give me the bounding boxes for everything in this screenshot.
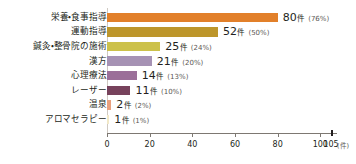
bar-value-label: 2件(2%)	[116, 99, 151, 110]
axis-tick	[331, 130, 333, 136]
bar-row: レーザー11件(10%)	[0, 83, 356, 98]
bar-and-value: 2件(2%)	[107, 98, 151, 113]
bar-value-label: 21件(20%)	[157, 56, 204, 67]
bar-value-unit: 件	[122, 117, 129, 125]
bar-value-percent: (1%)	[133, 118, 150, 125]
category-label: 鍼灸・整骨院の施術	[3, 42, 107, 51]
bar-value-label: 14件(13%)	[142, 70, 189, 81]
category-label: 温泉	[3, 100, 107, 109]
bar-value-number: 11	[135, 85, 149, 96]
bar-value-percent: (76%)	[308, 16, 329, 23]
axis-tick-label: 80	[273, 141, 283, 149]
bar-value-unit: 件	[150, 88, 157, 96]
bar	[107, 86, 130, 96]
category-label: 漢方	[3, 57, 107, 66]
bar	[107, 100, 111, 110]
bar-and-value: 25件(24%)	[107, 39, 212, 54]
horizontal-bar-chart: 栄養・食事指導80件(76%)運動指導52件(50%)鍼灸・整骨院の施術25件(…	[0, 0, 356, 164]
plot-area: 栄養・食事指導80件(76%)運動指導52件(50%)鍼灸・整骨院の施術25件(…	[0, 0, 356, 132]
axis-tick	[278, 133, 279, 137]
axis-tick-label: 40	[187, 141, 197, 149]
bar-and-value: 21件(20%)	[107, 54, 203, 69]
value-axis-line	[107, 133, 337, 134]
bar-value-percent: (50%)	[248, 30, 269, 37]
bar-row: 心理療法14件(13%)	[0, 68, 356, 83]
axis-tick	[150, 133, 151, 137]
bar-value-label: 52件(50%)	[223, 26, 270, 37]
bar-row: アロマセラピー1件(1%)	[0, 112, 356, 127]
bar-row: 温泉2件(2%)	[0, 98, 356, 113]
bar-value-unit: 件	[156, 73, 163, 81]
bar-row: 運動指導52件(50%)	[0, 25, 356, 40]
bar	[107, 115, 109, 125]
axis-tick-label: 0	[104, 141, 109, 149]
axis-tick	[192, 133, 193, 137]
bar-value-label: 11件(10%)	[135, 85, 182, 96]
bar-value-percent: (13%)	[167, 74, 188, 81]
bar-value-number: 80	[283, 12, 297, 23]
axis-tick-label: 20	[145, 141, 155, 149]
bar-row: 栄養・食事指導80件(76%)	[0, 10, 356, 25]
axis-tick	[235, 133, 236, 137]
bar	[107, 56, 152, 66]
bar-value-percent: (10%)	[161, 89, 182, 96]
bar-row: 漢方21件(20%)	[0, 54, 356, 69]
bar-value-number: 25	[165, 41, 179, 52]
bar-value-number: 2	[116, 99, 123, 110]
bar-and-value: 11件(10%)	[107, 83, 182, 98]
bar-value-number: 14	[142, 70, 156, 81]
bar-value-number: 52	[223, 26, 237, 37]
bar-value-percent: (2%)	[135, 103, 152, 110]
bar-value-label: 80件(76%)	[283, 12, 330, 23]
axis-unit-label: (件)	[337, 143, 349, 150]
bar-row: 鍼灸・整骨院の施術25件(24%)	[0, 39, 356, 54]
bar-value-number: 21	[157, 56, 171, 67]
category-label: 栄養・食事指導	[3, 13, 107, 22]
bar-value-unit: 件	[237, 29, 244, 37]
bar-value-percent: (20%)	[182, 60, 203, 67]
bar-value-percent: (24%)	[191, 45, 212, 52]
category-label: 運動指導	[3, 27, 107, 36]
bar	[107, 13, 278, 23]
bar-value-unit: 件	[171, 59, 178, 67]
bar-value-unit: 件	[180, 44, 187, 52]
axis-tick	[107, 133, 108, 137]
bar-value-label: 25件(24%)	[165, 41, 212, 52]
bar-value-unit: 件	[297, 15, 304, 23]
bar-value-label: 1件(1%)	[114, 114, 149, 125]
bar	[107, 42, 160, 52]
category-label: アロマセラピー	[3, 115, 107, 124]
axis-tick-label: 60	[230, 141, 240, 149]
bar-value-unit: 件	[124, 102, 131, 110]
bar	[107, 71, 137, 81]
bar-and-value: 1件(1%)	[107, 112, 149, 127]
axis-tick	[320, 133, 321, 137]
bar-value-number: 1	[114, 114, 121, 125]
category-label: 心理療法	[3, 71, 107, 80]
bar-and-value: 52件(50%)	[107, 25, 269, 40]
bar-and-value: 14件(13%)	[107, 68, 188, 83]
bar	[107, 27, 218, 37]
bar-and-value: 80件(76%)	[107, 10, 329, 25]
category-label: レーザー	[3, 86, 107, 95]
